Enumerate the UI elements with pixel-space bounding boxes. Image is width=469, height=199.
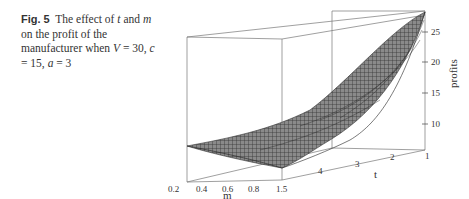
z-tick-10: 10 bbox=[431, 119, 441, 129]
t-axis-label: t bbox=[374, 168, 377, 180]
m-tick-0: 0.2 bbox=[168, 184, 179, 194]
z-tick-15: 15 bbox=[431, 88, 441, 98]
profit-surface bbox=[187, 12, 425, 168]
z-axis: 10 15 20 25 profits bbox=[422, 27, 459, 129]
t-tick-3: 3 bbox=[355, 159, 360, 169]
t-tick-1: 1 bbox=[425, 151, 430, 161]
m-axis-label: m bbox=[223, 189, 232, 199]
t-tick-2: 2 bbox=[390, 152, 395, 162]
m-tick-3: 0.8 bbox=[248, 184, 260, 194]
z-tick-25: 25 bbox=[431, 27, 441, 37]
t-axis: 4 3 2 1 t bbox=[318, 151, 430, 180]
z-tick-20: 20 bbox=[431, 57, 441, 67]
t-tick-4: 4 bbox=[318, 166, 323, 176]
z-axis-label: profits bbox=[447, 59, 459, 88]
surface-plot: 10 15 20 25 profits 0.2 0.4 0.6 0.8 1.5 … bbox=[0, 0, 469, 199]
m-tick-1: 0.4 bbox=[196, 184, 208, 194]
m-axis: 0.2 0.4 0.6 0.8 1.5 m bbox=[168, 184, 288, 199]
m-tick-4: 1.5 bbox=[276, 184, 288, 194]
